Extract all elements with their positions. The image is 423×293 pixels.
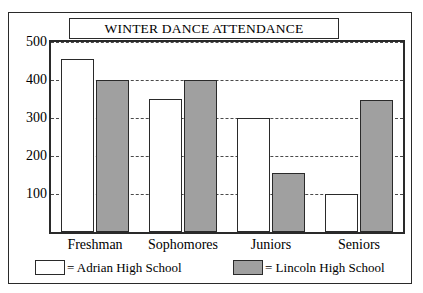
- page-title: WINTER DANCE ATTENDANCE: [105, 21, 304, 37]
- chart-legend: = Adrian High School = Lincoln High Scho…: [35, 257, 387, 278]
- y-axis-tick-label: 400: [11, 73, 47, 87]
- y-axis-tick-label: 200: [11, 149, 47, 163]
- x-axis-tick-label: Freshman: [67, 237, 122, 253]
- bar-juniors-adrian: [237, 118, 270, 232]
- bar-sophomores-adrian: [149, 99, 182, 232]
- bar-freshman-lincoln: [96, 80, 129, 232]
- y-axis-tick-label: 500: [11, 35, 47, 49]
- plot-inner: 500400300200100: [51, 42, 403, 232]
- x-axis-tick-label: Juniors: [251, 237, 291, 253]
- bar-sophomores-lincoln: [184, 80, 217, 232]
- legend-entry-lincoln: = Lincoln High School: [233, 260, 385, 275]
- bar-seniors-lincoln: [360, 100, 393, 232]
- x-axis-tick-label: Seniors: [338, 237, 380, 253]
- y-axis-tick-label: 100: [11, 187, 47, 201]
- chart-title-box: WINTER DANCE ATTENDANCE: [69, 18, 339, 39]
- bar-juniors-lincoln: [272, 173, 305, 232]
- x-axis-tick-label: Sophomores: [148, 237, 218, 253]
- legend-label-adrian: = Adrian High School: [67, 261, 182, 275]
- bar-freshman-adrian: [61, 59, 94, 232]
- legend-entry-adrian: = Adrian High School: [35, 260, 233, 275]
- bar-seniors-adrian: [325, 194, 358, 232]
- y-axis-tick-label: 300: [11, 111, 47, 125]
- white-swatch-icon: [35, 260, 65, 275]
- plot-area: 500400300200100: [49, 40, 405, 234]
- gray-swatch-icon: [233, 260, 263, 275]
- gridline: [51, 42, 403, 43]
- legend-label-lincoln: = Lincoln High School: [265, 261, 385, 275]
- chart-figure: WINTER DANCE ATTENDANCE 500400300200100 …: [8, 12, 412, 284]
